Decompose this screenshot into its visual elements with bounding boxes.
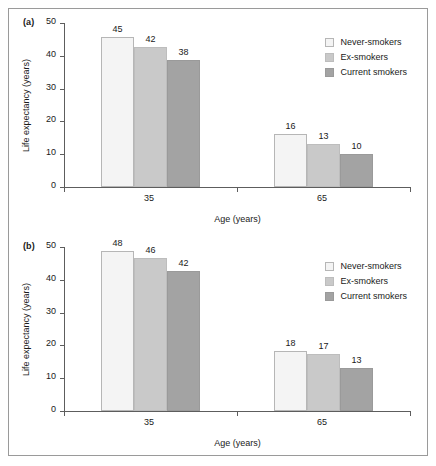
panel-a-legend-label-current-smokers: Current smokers [340, 67, 407, 77]
panel-a: (a) Life expectancy (years) Age (years) … [9, 9, 429, 233]
panel-a-xtick-mid [237, 188, 238, 192]
panel-a-group-label-65: 65 [292, 193, 352, 203]
panel-b-ytick-label-20: 20 [46, 338, 56, 348]
panel-a-ytick-10: 10 [60, 154, 64, 155]
panel-a-value-35-never: 45 [112, 24, 122, 34]
panel-b-legend: Never-smokers Ex-smokers Current smokers [325, 259, 407, 304]
panel-b-ytick-label-10: 10 [46, 371, 56, 381]
panel-a-legend-label-ex-smokers: Ex-smokers [340, 52, 388, 62]
panel-a-ytick-30: 30 [60, 89, 64, 90]
panel-a-value-35-ex: 42 [145, 34, 155, 44]
panel-a-ytick-20: 20 [60, 121, 64, 122]
panel-b-ytick-label-30: 30 [46, 306, 56, 316]
panel-a-x-axis-label: Age (years) [64, 214, 411, 224]
panel-a-bar-65-current: 10 [340, 154, 373, 187]
panel-a-ytick-label-40: 40 [46, 49, 56, 59]
panel-b-ytick-label-40: 40 [46, 273, 56, 283]
panel-a-ytick-label-10: 10 [46, 147, 56, 157]
panel-b: (b) Life expectancy (years) Age (years) … [9, 233, 429, 457]
panel-b-y-axis-label: Life expectancy (years) [19, 247, 33, 412]
panel-b-legend-label-never-smokers: Never-smokers [340, 261, 401, 271]
panel-b-xtick-mid [237, 412, 238, 416]
panel-b-legend-item-never-smokers: Never-smokers [325, 259, 407, 273]
panel-a-legend: Never-smokers Ex-smokers Current smokers [325, 35, 407, 80]
panel-b-ytick-30: 30 [60, 313, 64, 314]
panel-b-bar-65-current: 13 [340, 368, 373, 411]
panel-b-value-35-ex: 46 [145, 245, 155, 255]
panel-a-ytick-label-50: 50 [46, 16, 56, 26]
panel-b-value-35-current: 42 [178, 258, 188, 268]
panel-a-bar-35-current: 38 [167, 60, 200, 187]
panel-a-ytick-label-20: 20 [46, 114, 56, 124]
panel-b-bar-65-never: 18 [274, 351, 307, 411]
panel-b-value-65-never: 18 [285, 338, 295, 348]
panel-a-y-axis-line [64, 23, 65, 188]
panel-a-legend-item-never-smokers: Never-smokers [325, 35, 407, 49]
panel-b-value-35-never: 48 [112, 238, 122, 248]
panel-b-legend-item-ex-smokers: Ex-smokers [325, 274, 407, 288]
panel-b-group-label-35: 35 [119, 417, 179, 427]
panel-a-bar-65-ex: 13 [307, 144, 340, 187]
panel-b-bar-35-ex: 46 [134, 258, 167, 411]
panel-a-bar-65-never: 16 [274, 134, 307, 187]
panel-a-legend-item-ex-smokers: Ex-smokers [325, 50, 407, 64]
panel-a-y-axis-label: Life expectancy (years) [19, 23, 33, 188]
panel-a-value-65-never: 16 [285, 121, 295, 131]
legend-swatch-ex-smokers-icon [325, 277, 334, 286]
panel-b-value-65-current: 13 [351, 355, 361, 365]
figure-root: (a) Life expectancy (years) Age (years) … [0, 0, 436, 466]
panel-a-bar-35-ex: 42 [134, 47, 167, 187]
panel-a-value-65-current: 10 [351, 141, 361, 151]
panel-a-ytick-label-0: 0 [51, 180, 56, 190]
panel-b-ytick-40: 40 [60, 280, 64, 281]
legend-swatch-ex-smokers-icon [325, 53, 334, 62]
panel-a-group-label-35: 35 [119, 193, 179, 203]
panel-b-bar-35-never: 48 [101, 251, 134, 411]
panel-a-ytick-label-30: 30 [46, 82, 56, 92]
legend-swatch-current-smokers-icon [325, 68, 334, 77]
panel-a-value-35-current: 38 [178, 47, 188, 57]
panel-b-ytick-label-50: 50 [46, 240, 56, 250]
panel-a-legend-label-never-smokers: Never-smokers [340, 37, 401, 47]
panel-b-x-axis-label: Age (years) [64, 438, 411, 448]
panel-b-bar-65-ex: 17 [307, 354, 340, 411]
panel-a-ytick-50: 50 [60, 23, 64, 24]
panel-b-ytick-50: 50 [60, 247, 64, 248]
legend-swatch-never-smokers-icon [325, 262, 334, 271]
panel-b-value-65-ex: 17 [318, 341, 328, 351]
panel-a-xtick-right [410, 188, 411, 192]
panel-b-ytick-20: 20 [60, 345, 64, 346]
panel-b-bar-35-current: 42 [167, 271, 200, 411]
panel-b-xtick-right [410, 412, 411, 416]
legend-swatch-current-smokers-icon [325, 292, 334, 301]
panel-a-legend-item-current-smokers: Current smokers [325, 65, 407, 79]
legend-swatch-never-smokers-icon [325, 38, 334, 47]
panel-b-group-label-65: 65 [292, 417, 352, 427]
panel-b-legend-label-current-smokers: Current smokers [340, 291, 407, 301]
panel-b-legend-item-current-smokers: Current smokers [325, 289, 407, 303]
panel-b-ytick-10: 10 [60, 378, 64, 379]
figure-frame: (a) Life expectancy (years) Age (years) … [8, 8, 428, 456]
panel-a-ytick-40: 40 [60, 56, 64, 57]
panel-b-ytick-label-0: 0 [51, 404, 56, 414]
panel-a-value-65-ex: 13 [318, 131, 328, 141]
panel-b-xtick-left [64, 412, 65, 416]
panel-b-y-axis-line [64, 247, 65, 412]
panel-b-legend-label-ex-smokers: Ex-smokers [340, 276, 388, 286]
panel-a-xtick-left [64, 188, 65, 192]
panel-a-bar-35-never: 45 [101, 37, 134, 187]
